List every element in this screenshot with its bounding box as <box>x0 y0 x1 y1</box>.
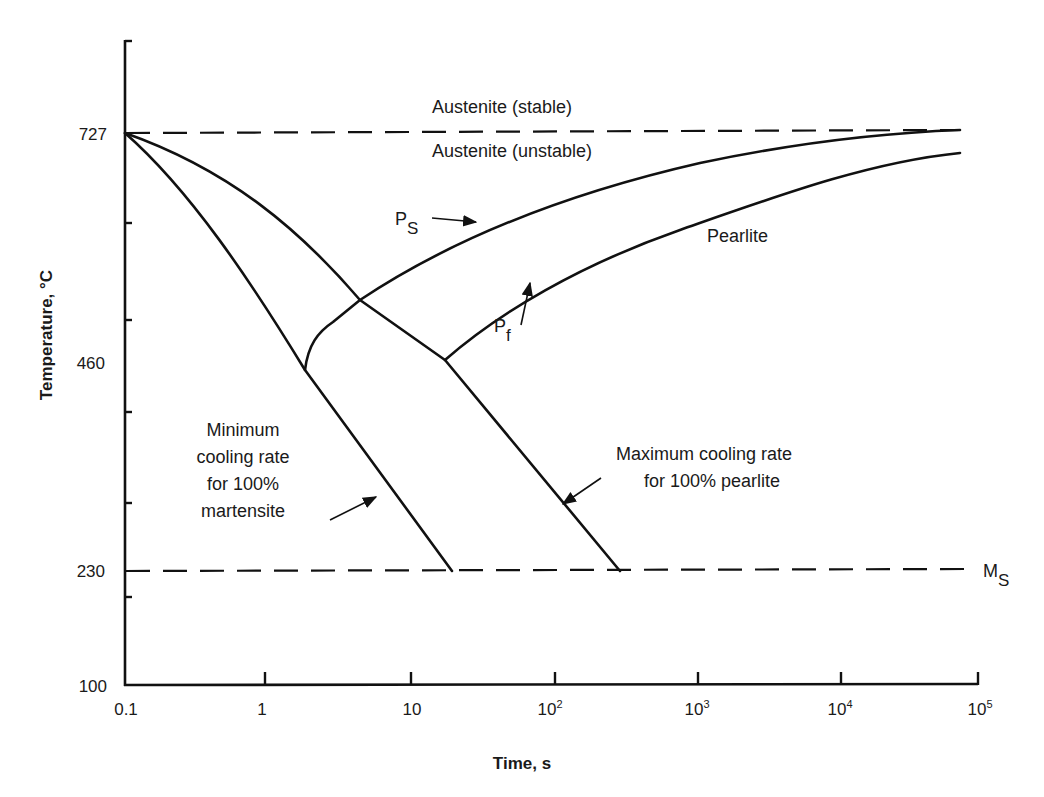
svg-text:Pf: Pf <box>494 316 511 345</box>
x-tick-0: 0.1 <box>114 700 138 719</box>
x-tick-4: 103 <box>684 698 709 719</box>
x-tick-6: 105 <box>967 698 992 719</box>
label-austenite-unstable: Austenite (unstable) <box>432 141 592 161</box>
svg-text:martensite: martensite <box>201 501 285 521</box>
x-axis <box>124 684 978 685</box>
pf-annotation: Pf <box>494 283 530 345</box>
max-rate-annotation: Maximum cooling rate for 100% pearlite <box>563 444 792 504</box>
y-axis-title: Temperature, °C <box>37 270 56 400</box>
y-tick-100: 100 <box>79 677 107 696</box>
max-cooling-rate-curve <box>125 133 620 571</box>
y-tick-727: 727 <box>79 125 107 144</box>
x-axis-title: Time, s <box>493 754 551 773</box>
ps-annotation: PS <box>395 209 476 238</box>
ms-line-230 <box>126 569 968 571</box>
axes <box>124 40 978 686</box>
label-pearlite: Pearlite <box>707 226 768 246</box>
ttt-diagram: 727 460 230 100 0.1 1 10 102 103 104 105… <box>0 0 1044 797</box>
y-tick-labels: 727 460 230 100 <box>77 125 107 696</box>
min-rate-annotation: Minimum cooling rate for 100% martensite <box>196 420 376 521</box>
svg-text:Minimum: Minimum <box>206 420 279 440</box>
y-tick-230: 230 <box>77 562 105 581</box>
a1-line-727 <box>126 130 960 133</box>
min-rate-arrow <box>330 497 376 520</box>
max-rate-arrow <box>563 478 601 504</box>
y-tick-460: 460 <box>77 354 105 373</box>
svg-text:PS: PS <box>395 209 418 238</box>
svg-text:cooling rate: cooling rate <box>196 447 289 467</box>
svg-text:for 100%: for 100% <box>207 474 279 494</box>
ps-arrow <box>432 218 476 222</box>
pf-curve <box>445 153 960 360</box>
x-tick-3: 102 <box>537 698 562 719</box>
ps-curve <box>305 130 960 370</box>
label-ms: MS <box>983 561 1009 590</box>
label-austenite-stable: Austenite (stable) <box>432 97 572 117</box>
svg-text:for 100% pearlite: for 100% pearlite <box>644 471 780 491</box>
x-tick-labels: 0.1 1 10 102 103 104 105 <box>114 698 992 719</box>
min-cooling-rate-curve <box>125 133 452 571</box>
svg-text:Maximum cooling rate: Maximum cooling rate <box>616 444 792 464</box>
x-tick-2: 10 <box>403 700 422 719</box>
x-tick-1: 1 <box>257 700 266 719</box>
x-tick-5: 104 <box>827 698 852 719</box>
